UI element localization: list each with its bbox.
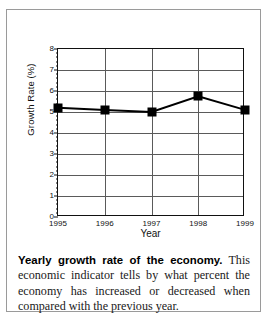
plot-area: 012345678 19951996199719981999 xyxy=(57,48,244,216)
x-axis-title: Year xyxy=(57,228,244,239)
data-point xyxy=(54,103,63,112)
x-tick-label: 1995 xyxy=(49,220,67,228)
data-point xyxy=(147,108,156,117)
data-point xyxy=(100,105,109,114)
figure-caption: Yearly growth rate of the economy. This … xyxy=(18,253,250,314)
data-point xyxy=(241,105,250,114)
data-point xyxy=(194,92,203,101)
x-tick-label: 1999 xyxy=(236,220,254,228)
x-tick-label: 1996 xyxy=(96,220,114,228)
y-axis-title: Growth Rate (%) xyxy=(25,45,36,155)
caption-lead: Yearly growth rate of the economy. xyxy=(18,254,222,266)
figure-card: Growth Rate (%) 012345678 19951996199719… xyxy=(6,9,261,312)
x-tick-label: 1997 xyxy=(143,220,161,228)
x-tick-label: 1998 xyxy=(189,220,207,228)
series-line xyxy=(58,49,245,217)
chart-region: Growth Rate (%) 012345678 19951996199719… xyxy=(7,10,260,242)
